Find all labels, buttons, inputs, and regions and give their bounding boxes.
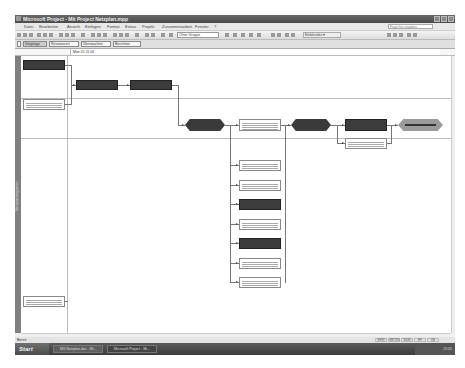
window-title: Microsoft Project - Mit Project Netzplan… — [23, 15, 128, 23]
node-field — [242, 266, 278, 267]
copy-icon[interactable] — [65, 33, 69, 37]
system-tray-clock: 20:45 — [415, 343, 455, 355]
open-icon[interactable] — [23, 33, 27, 37]
group-by-dropdown[interactable]: Ohne Gruppe — [177, 32, 219, 38]
underline-icon[interactable] — [399, 33, 403, 37]
task-node-critical[interactable] — [239, 238, 281, 249]
zoom-icon[interactable] — [225, 33, 229, 37]
menu-file[interactable]: Datei — [24, 23, 33, 30]
task-node[interactable] — [239, 180, 281, 191]
notes-icon[interactable] — [119, 33, 123, 37]
network-diagram-canvas[interactable] — [21, 56, 451, 333]
menu-view[interactable]: Ansicht — [67, 23, 80, 30]
italic-icon[interactable] — [393, 33, 397, 37]
task-node-critical[interactable] — [23, 60, 65, 70]
menu-help[interactable]: ? — [214, 23, 216, 30]
menu-window[interactable]: Fenster — [195, 23, 209, 30]
hide-minus-icon[interactable] — [291, 33, 295, 37]
task-node[interactable] — [345, 138, 387, 149]
task-node-critical[interactable] — [130, 80, 172, 90]
menu-insert[interactable]: Einfügen — [85, 23, 101, 30]
taskbar-item-project[interactable]: Microsoft Project - Mi... — [107, 345, 157, 353]
guide-resources-button[interactable]: Ressourcen — [49, 41, 79, 47]
task-node[interactable] — [239, 219, 281, 230]
zoom-out2-icon[interactable] — [233, 33, 237, 37]
link-line — [65, 301, 68, 302]
summary-node[interactable] — [398, 119, 443, 131]
menu-edit[interactable]: Bearbeiten — [39, 23, 58, 30]
spellcheck-icon[interactable] — [49, 33, 53, 37]
goto-task-icon[interactable] — [161, 33, 165, 37]
task-node[interactable] — [239, 119, 281, 131]
status-indicator: GROSS — [388, 338, 400, 342]
link-line — [387, 143, 392, 144]
node-field — [348, 142, 384, 143]
task-node[interactable] — [239, 258, 281, 269]
new-icon[interactable] — [17, 33, 21, 37]
align-center-icon[interactable] — [413, 33, 417, 37]
task-node[interactable] — [239, 277, 281, 288]
menu-project[interactable]: Projekt — [142, 23, 154, 30]
milestone-node[interactable] — [291, 119, 331, 131]
band-divider — [67, 56, 68, 333]
node-field — [242, 281, 278, 282]
task-node[interactable] — [239, 160, 281, 171]
node-field — [26, 304, 62, 305]
close-button[interactable] — [448, 16, 454, 22]
milestone-node[interactable] — [185, 119, 225, 131]
zoom-out-icon[interactable] — [151, 33, 155, 37]
help-icon[interactable] — [257, 33, 261, 37]
zoom-in-icon[interactable] — [145, 33, 149, 37]
node-field — [26, 302, 62, 303]
print-icon[interactable] — [37, 33, 41, 37]
undo-icon[interactable] — [81, 33, 85, 37]
menu-collaborate[interactable]: Zusammenarbeit — [162, 23, 192, 30]
preview-icon[interactable] — [43, 33, 47, 37]
guide-tasks-button[interactable]: Vorgänge — [23, 41, 47, 47]
publish-icon[interactable] — [135, 33, 139, 37]
ms-project-window: Microsoft Project - Mit Project Netzplan… — [15, 15, 455, 355]
task-info-icon[interactable] — [113, 33, 117, 37]
task-node-critical[interactable] — [345, 119, 387, 131]
arrow-icon — [342, 124, 344, 126]
bold-icon[interactable] — [387, 33, 391, 37]
arrow-icon — [127, 84, 129, 86]
arrow-icon — [236, 281, 238, 283]
outdent-icon[interactable] — [271, 33, 275, 37]
task-node-critical[interactable] — [239, 199, 281, 210]
link-icon[interactable] — [91, 33, 95, 37]
cut-icon[interactable] — [59, 33, 63, 37]
menu-tools[interactable]: Extras — [125, 23, 136, 30]
maximize-button[interactable] — [441, 16, 447, 22]
help-search-input[interactable]: Frage hier eingeben — [388, 24, 433, 29]
copy-picture-icon[interactable] — [249, 33, 253, 37]
filter-icon[interactable] — [169, 33, 173, 37]
menu-format[interactable]: Format — [107, 23, 120, 30]
goto-selected-icon[interactable] — [241, 33, 245, 37]
show-subtasks-dropdown[interactable]: Einblenden ▾ — [303, 32, 341, 38]
status-indicator: RF — [414, 338, 426, 342]
paste-icon[interactable] — [71, 33, 75, 37]
windows-taskbar: Start MS Netzplan.doc - Mi... Microsoft … — [15, 343, 455, 355]
guide-toggle-icon[interactable] — [17, 41, 21, 47]
arrow-icon — [236, 203, 238, 205]
minimize-button[interactable] — [434, 16, 440, 22]
start-button[interactable]: Start — [15, 343, 49, 355]
node-field — [242, 129, 278, 130]
task-node[interactable] — [23, 99, 65, 110]
assign-resources-icon[interactable] — [125, 33, 129, 37]
taskbar-item-word[interactable]: MS Netzplan.doc - Mi... — [53, 345, 103, 353]
entry-field[interactable]: Mon 01.11.06 — [70, 49, 440, 55]
guide-report-button[interactable]: Berichten — [113, 41, 141, 47]
unlink-icon[interactable] — [97, 33, 101, 37]
task-node-critical[interactable] — [76, 80, 118, 90]
vertical-scrollbar[interactable] — [451, 56, 455, 333]
show-plus-icon[interactable] — [285, 33, 289, 37]
indent-icon[interactable] — [277, 33, 281, 37]
align-left-icon[interactable] — [407, 33, 411, 37]
split-icon[interactable] — [103, 33, 107, 37]
save-icon[interactable] — [29, 33, 33, 37]
node-field — [242, 283, 278, 284]
guide-track-button[interactable]: Überwachen — [81, 41, 111, 47]
task-node[interactable] — [23, 296, 65, 307]
